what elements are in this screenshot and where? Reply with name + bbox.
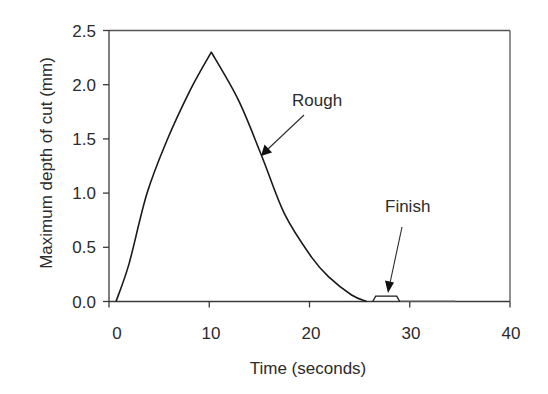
y-tick-label: 2.0 xyxy=(72,76,96,95)
y-axis-ticks xyxy=(103,31,109,302)
x-tick-label: 10 xyxy=(202,324,221,343)
y-axis-title: Maximum depth of cut (mm) xyxy=(37,57,56,269)
finish-label: Finish xyxy=(385,197,430,216)
y-tick-label: 2.5 xyxy=(72,22,96,41)
x-axis-title: Time (seconds) xyxy=(250,359,367,378)
x-tick-label: 30 xyxy=(402,324,421,343)
y-tick-labels: 0.0 0.5 1.0 1.5 2.0 2.5 xyxy=(72,22,96,312)
plot-frame xyxy=(109,31,510,302)
x-tick-labels: 0 10 20 30 40 xyxy=(112,324,520,343)
rough-label: Rough xyxy=(292,91,342,110)
finish-arrow-shaft xyxy=(390,227,402,283)
rough-annotation: Rough xyxy=(261,91,342,156)
rough-arrow-shaft xyxy=(268,115,304,149)
rough-series-line xyxy=(116,52,367,301)
x-tick-label: 0 xyxy=(112,324,121,343)
y-tick-label: 1.0 xyxy=(72,184,96,203)
x-axis-ticks xyxy=(109,302,510,308)
y-tick-label: 0.5 xyxy=(72,238,96,257)
finish-series-line xyxy=(373,296,400,301)
x-tick-label: 20 xyxy=(302,324,321,343)
depth-of-cut-chart: 0.0 0.5 1.0 1.5 2.0 2.5 0 10 20 30 40 Ti… xyxy=(0,0,548,394)
y-tick-label: 0.0 xyxy=(72,293,96,312)
y-tick-label: 1.5 xyxy=(72,130,96,149)
x-tick-label: 40 xyxy=(502,324,521,343)
finish-annotation: Finish xyxy=(385,197,430,293)
finish-arrow-head-icon xyxy=(385,281,394,294)
